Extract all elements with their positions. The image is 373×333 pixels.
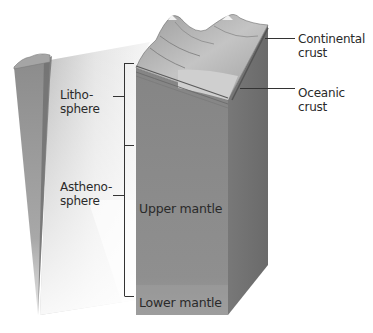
oceanic-crust-label-line1: Oceanic bbox=[298, 86, 345, 100]
lithosphere-label: Litho- sphere bbox=[60, 88, 100, 116]
projection-funnel bbox=[40, 42, 150, 315]
asthenosphere-label: Astheno- sphere bbox=[60, 180, 112, 208]
lower-mantle-label: Lower mantle bbox=[139, 296, 222, 310]
continental-crust-label: Continental crust bbox=[298, 32, 365, 60]
asthenosphere-label-line2: sphere bbox=[60, 194, 112, 208]
asthenosphere-label-line1: Astheno- bbox=[60, 180, 112, 194]
upper-mantle-label: Upper mantle bbox=[139, 202, 222, 216]
crust-mantle-block bbox=[136, 14, 268, 315]
lithosphere-label-line2: sphere bbox=[60, 102, 100, 116]
lithosphere-label-line1: Litho- bbox=[60, 88, 100, 102]
oceanic-crust-label-line2: crust bbox=[298, 100, 345, 114]
oceanic-crust-label: Oceanic crust bbox=[298, 86, 345, 114]
continental-crust-label-line2: crust bbox=[298, 46, 365, 60]
continental-crust-label-line1: Continental bbox=[298, 32, 365, 46]
